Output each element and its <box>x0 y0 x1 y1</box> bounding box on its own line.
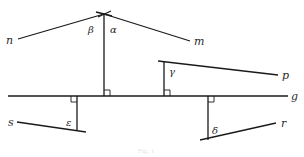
angle-label-gamma: γ <box>169 66 175 77</box>
right-angle-mark-icon <box>164 90 170 96</box>
label-m: m <box>194 35 204 48</box>
label-r: r <box>281 117 287 130</box>
line-s <box>17 122 86 132</box>
line-m <box>104 14 190 41</box>
geometry-diagram: gnmpsrFig. 1 βαγεδ <box>0 0 304 157</box>
label-g: g <box>291 90 298 103</box>
angle-label-alpha: α <box>110 24 117 35</box>
angle-label-epsilon: ε <box>66 117 71 128</box>
angle-label-delta: δ <box>212 125 218 136</box>
label-p: p <box>282 69 289 82</box>
label-s: s <box>8 116 14 129</box>
right-angle-mark-icon <box>104 90 110 96</box>
labels-group: gnmpsrFig. 1 <box>6 34 298 155</box>
angle-label-beta: β <box>87 24 94 35</box>
figure-caption: Fig. 1 <box>138 147 155 155</box>
label-n: n <box>6 34 13 47</box>
right-angle-mark-icon <box>208 96 214 102</box>
right-angle-mark-icon <box>71 96 77 102</box>
lines-group <box>8 11 288 140</box>
diagram-svg: gnmpsrFig. 1 βαγεδ <box>0 0 304 157</box>
line-p <box>158 61 278 75</box>
